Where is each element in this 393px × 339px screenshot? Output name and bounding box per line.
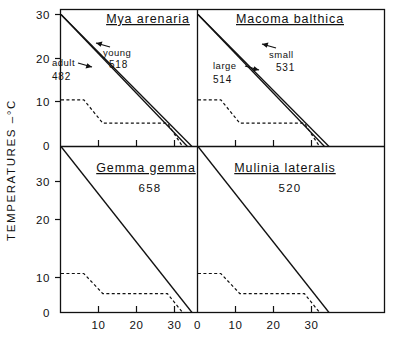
y-tick-bottom-20: 20 xyxy=(36,214,50,226)
panel-title-gemma-gemma: Gemma gemma xyxy=(96,161,196,175)
annotation-number-small: 531 xyxy=(276,62,295,73)
annotation-small: small 531 xyxy=(262,43,295,73)
figure-container: TEMPERATURES –°C 30 20 10 0 30 20 10 0 xyxy=(0,0,393,339)
y-tick-bottom-30: 30 xyxy=(36,176,50,188)
annotation-number-young: 518 xyxy=(109,59,128,70)
arrow-head-small xyxy=(262,43,269,48)
annotation-label-large: large xyxy=(213,60,237,71)
y-tick-top-30: 30 xyxy=(36,9,50,21)
x-tick-right-30: 30 xyxy=(305,319,319,331)
x-tick-marks-bottom xyxy=(99,306,312,313)
x-tick-left-20: 20 xyxy=(130,319,144,331)
panel-title-macoma-balthica: Macoma balthica xyxy=(236,12,344,26)
y-tick-bottom-10: 10 xyxy=(36,272,50,284)
panel-title-mulinia-lateralis: Mulinia lateralis xyxy=(234,161,335,175)
y-axis-title: TEMPERATURES –°C xyxy=(5,99,17,241)
panel-macoma-balthica: Macoma balthica small 531 large 514 xyxy=(198,12,344,147)
x-tick-right-20: 20 xyxy=(267,319,281,331)
y-axis-title-text: TEMPERATURES –°C xyxy=(5,99,17,241)
panel-title-mya-arenaria: Mya arenaria xyxy=(106,12,190,26)
curve-field-temperature xyxy=(198,274,320,313)
annotation-label-young: young xyxy=(103,47,131,58)
curve-adult-482 xyxy=(61,15,188,147)
arrow-head-young xyxy=(96,42,103,47)
x-tick-left-10: 10 xyxy=(92,319,106,331)
y-ticks-bottom: 30 20 10 0 xyxy=(36,176,50,319)
panel-number-mulinia-lateralis: 520 xyxy=(279,182,302,194)
annotation-label-small: small xyxy=(269,49,294,60)
annotation-adult: adult 482 xyxy=(52,57,92,82)
y-tick-bottom-0: 0 xyxy=(43,307,50,319)
y-ticks-top: 30 20 10 0 xyxy=(36,9,50,152)
annotation-number-large: 514 xyxy=(213,74,232,85)
curve-field-temperature xyxy=(61,274,183,313)
annotation-large: large 514 xyxy=(213,60,259,85)
x-tick-left-30: 30 xyxy=(168,319,182,331)
arrow-head-adult xyxy=(86,63,93,68)
x-tick-right-0: 0 xyxy=(194,319,201,331)
curve-field-temperature xyxy=(61,100,183,147)
curve-field-temperature xyxy=(198,100,320,147)
panel-mya-arenaria: Mya arenaria young 518 adult 482 xyxy=(52,12,192,147)
arrow-head-large xyxy=(253,66,260,71)
y-tick-top-0: 0 xyxy=(43,140,50,152)
annotation-number-adult: 482 xyxy=(52,71,71,82)
panel-number-gemma-gemma: 658 xyxy=(139,182,162,194)
x-tick-right-10: 10 xyxy=(229,319,243,331)
figure-svg: TEMPERATURES –°C 30 20 10 0 30 20 10 0 xyxy=(0,0,393,339)
y-tick-top-20: 20 xyxy=(36,53,50,65)
annotation-label-adult: adult xyxy=(52,57,75,68)
y-tick-top-10: 10 xyxy=(36,96,50,108)
x-ticks: 10 20 30 0 10 20 30 xyxy=(92,319,319,331)
x-tick-marks-middle xyxy=(99,140,312,147)
panel-mulinia-lateralis: Mulinia lateralis 520 xyxy=(198,147,336,313)
panel-gemma-gemma: Gemma gemma 658 xyxy=(61,147,196,313)
